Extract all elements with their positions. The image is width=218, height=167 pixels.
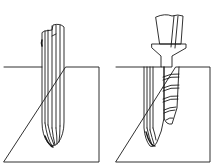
- left-panel: [4, 24, 99, 162]
- diagram-canvas: [0, 0, 218, 167]
- diagram-svg: [0, 0, 218, 167]
- implant-icon: [152, 15, 186, 124]
- left-fluted-drill-icon: [42, 24, 65, 147]
- right-panel: [116, 15, 210, 162]
- right-bone-block: [116, 67, 210, 162]
- right-fluted-drill-icon: [144, 67, 164, 147]
- left-bone-block: [4, 67, 99, 162]
